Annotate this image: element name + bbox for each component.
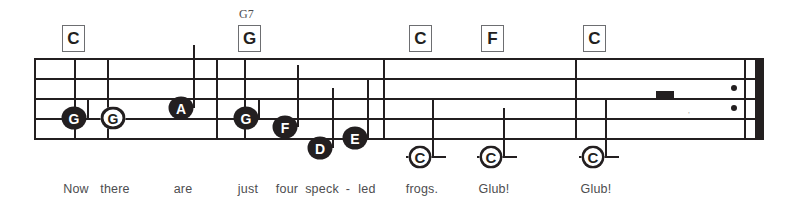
note-a-1[interactable]: A [169, 97, 194, 120]
note-g-1-stem [87, 98, 89, 118]
staff-line-3 [34, 98, 764, 100]
lyric-glub-2: Glub! [581, 182, 612, 196]
chord-c-3[interactable]: C [583, 25, 606, 52]
barline-4 [216, 58, 218, 140]
chord-g7[interactable]: G [238, 25, 261, 52]
staff-line-4 [34, 118, 764, 120]
half-rest [656, 91, 674, 99]
note-g-2[interactable]: G [101, 107, 126, 130]
note-g-3[interactable]: G [234, 107, 259, 130]
staff-line-5 [34, 138, 764, 140]
note-e-1[interactable]: E [343, 127, 368, 150]
chord-g7-superscript: G7 [239, 7, 254, 22]
lyric-led: led [358, 182, 375, 196]
note-f-1[interactable]: F [273, 116, 298, 139]
note-g-1[interactable]: G [62, 107, 87, 130]
note-a-1-stem [193, 45, 195, 108]
lyric-just: just [238, 182, 258, 196]
lyric-there: there [100, 182, 130, 196]
barline-7 [575, 58, 577, 140]
note-c-low-2[interactable]: C [480, 146, 503, 169]
note-c-low-1-stem [432, 98, 434, 157]
note-c-low-2-stem [503, 108, 505, 157]
note-c-low-3[interactable]: C [582, 146, 605, 169]
staff-line-1 [34, 58, 764, 60]
lyric-now: Now [63, 182, 89, 196]
lyric-glub-1: Glub! [479, 182, 510, 196]
note-c-low-3-stem [605, 98, 607, 157]
music-sheet-staff-system: CG7GCFC GGAGFDE CCC Nowtherearejustfours… [0, 0, 803, 200]
lyric-four: four [276, 182, 298, 196]
lyric-frogs: frogs. [406, 182, 438, 196]
chord-c-2[interactable]: C [409, 25, 432, 52]
scan-smudge: ’ [688, 110, 690, 119]
lyric-speck: speck [305, 182, 339, 196]
repeat-thick-barline [755, 58, 764, 140]
repeat-thin-barline [744, 58, 746, 140]
chord-f[interactable]: F [481, 25, 504, 52]
note-e-1-stem [367, 78, 369, 138]
note-d-1-stem [332, 88, 334, 148]
barline-1 [34, 58, 36, 140]
note-f-1-stem [297, 65, 299, 127]
barline-6 [383, 58, 385, 140]
note-d-1[interactable]: D [308, 137, 333, 160]
repeat-dot-lower [731, 105, 737, 111]
lyric-hyphen: - [346, 182, 350, 196]
staff-line-2 [34, 78, 764, 80]
chord-c-1[interactable]: C [62, 25, 85, 52]
lyric-are: are [174, 182, 193, 196]
repeat-dot-upper [731, 85, 737, 91]
note-c-low-1[interactable]: C [409, 146, 432, 169]
